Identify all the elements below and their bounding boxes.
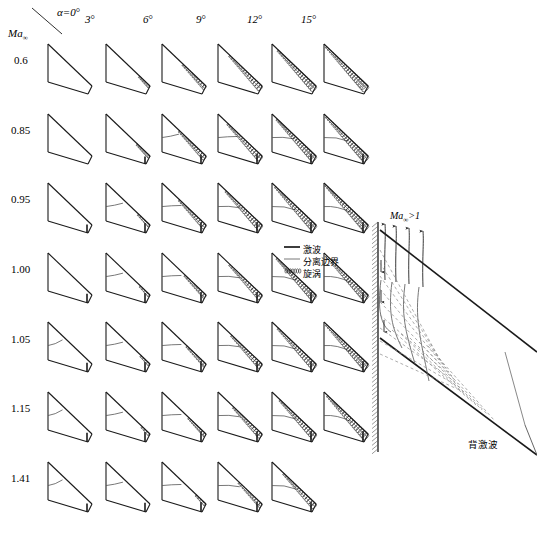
leading-edge <box>48 183 92 225</box>
tip-edge <box>88 86 92 94</box>
column-header-alpha-3: 3° <box>85 13 95 25</box>
wing-cell <box>324 44 370 94</box>
leading-edge <box>106 392 150 434</box>
trailing-edge <box>272 360 312 372</box>
wall-hatch <box>372 298 378 303</box>
vortex-loop <box>234 61 237 64</box>
trailing-edge <box>48 360 88 372</box>
tip-edge <box>312 364 316 372</box>
vortex-feeding-sheet <box>183 66 205 89</box>
vortex-feeding-sheet <box>278 329 315 366</box>
wall-hatch <box>372 222 378 227</box>
trailing-edge <box>272 82 312 94</box>
tip-edge <box>146 504 150 512</box>
row-header-mach-1-41: 1.41 <box>11 472 30 484</box>
vortex-loop <box>355 287 363 296</box>
wing-cell <box>48 114 92 164</box>
wall-hatch <box>372 239 378 244</box>
wing-cell <box>106 462 150 512</box>
vortex-feeding-sheet <box>326 48 367 89</box>
wing-cell <box>218 392 263 442</box>
vortex-loop <box>355 216 364 225</box>
trailing-edge <box>106 360 146 372</box>
separation-boundary <box>218 206 240 208</box>
mach-wave-dashed <box>380 263 443 364</box>
vortex-loop <box>329 328 332 331</box>
wing-cell <box>218 462 263 512</box>
legend-item-vortex-label: 旋涡 <box>303 267 321 280</box>
vortex-feeding-sheet <box>279 401 314 437</box>
vortex-loop <box>148 433 151 436</box>
vortex-loop <box>355 356 363 365</box>
wall-hatch <box>372 373 378 378</box>
wing-cell <box>272 322 318 372</box>
wall-hatch <box>372 327 378 332</box>
mach-wave-dashed <box>380 354 464 392</box>
tip-edge <box>88 504 92 512</box>
wall-hatch <box>372 243 378 248</box>
wall-hatch <box>372 264 378 269</box>
vortex-loop <box>191 213 196 218</box>
trailing-edge <box>218 500 258 512</box>
wall-hatch <box>372 436 378 441</box>
trailing-edge <box>218 221 258 233</box>
separation-boundary <box>48 480 63 486</box>
vortex-feeding-sheet <box>137 145 149 158</box>
separation-boundary <box>162 205 181 206</box>
detail-diagram <box>372 222 537 455</box>
vortex-feeding-sheet <box>188 419 205 437</box>
separation-boundary <box>218 415 240 417</box>
vortex-loop <box>230 197 233 200</box>
axis-corner-label: Ma∞ <box>8 27 28 42</box>
flow-field-matrix-svg <box>0 0 537 533</box>
trailing-edge <box>106 500 146 512</box>
mach-wave-dashed <box>380 341 461 388</box>
separation-boundary <box>162 275 181 276</box>
separation-boundary <box>106 342 123 345</box>
trailing-edge <box>162 291 202 303</box>
wing-cell <box>218 253 264 303</box>
wall-hatch <box>372 319 378 324</box>
streamline-arrow <box>423 231 424 287</box>
separation-boundary <box>48 340 63 346</box>
leading-edge <box>48 114 92 156</box>
wall-hatch <box>372 230 378 235</box>
separation-boundary <box>106 203 123 206</box>
leading-edge <box>48 44 92 86</box>
wall-hatch <box>372 251 378 256</box>
wall-hatch <box>372 277 378 282</box>
vortex-loop <box>251 496 256 501</box>
separation-boundary <box>106 482 123 485</box>
detail-mach-label: Ma∞>1 <box>390 210 420 224</box>
vortex-spiral <box>136 144 151 159</box>
leading-edge <box>106 462 150 504</box>
wing-cell <box>324 183 370 233</box>
wing-cell <box>48 462 92 512</box>
wall-hatch <box>372 314 378 319</box>
wing-cell <box>162 114 207 164</box>
streamline-arrow <box>385 224 386 280</box>
wing-cell <box>162 322 207 372</box>
vortex-spiral <box>186 346 207 368</box>
vortex-loop <box>202 293 207 298</box>
tip-edge <box>88 225 92 233</box>
wall-hatch <box>372 289 378 294</box>
trailing-edge <box>48 221 88 233</box>
vortex-feeding-sheet <box>278 51 315 88</box>
vortex-loop <box>243 418 247 422</box>
mach-wave-dashed <box>380 276 446 368</box>
wing-cell <box>106 183 151 233</box>
vortex-loop <box>357 358 366 367</box>
trailing-edge <box>48 291 88 303</box>
front-shock-line <box>380 230 537 352</box>
vortex-loop <box>193 215 198 220</box>
vortex-loop <box>309 223 318 233</box>
vortex-loop <box>255 500 260 505</box>
vortex-loop <box>329 50 332 53</box>
vortex-loop <box>357 150 366 159</box>
vortex-loop <box>360 292 370 302</box>
vortex-spiral <box>276 119 318 163</box>
vortex-loop <box>278 190 281 193</box>
vortex-feeding-sheet <box>239 484 261 507</box>
tip-edge <box>88 295 92 303</box>
